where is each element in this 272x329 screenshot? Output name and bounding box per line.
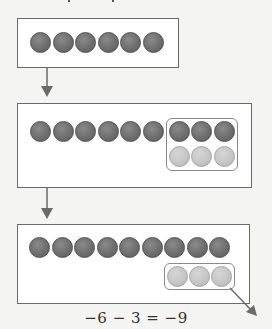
arrows-layer — [0, 0, 272, 329]
down-arrow-icon — [41, 188, 53, 219]
equation: −6 − 3 = −9 — [0, 309, 272, 327]
down-arrow-icon — [41, 68, 53, 97]
